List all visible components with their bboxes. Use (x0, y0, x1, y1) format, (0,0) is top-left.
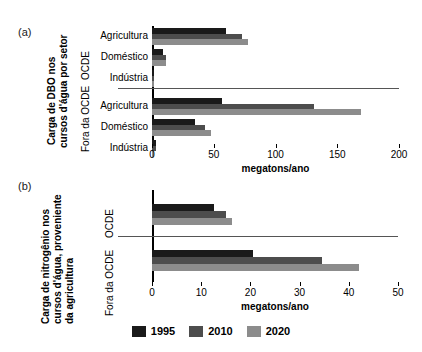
x-tick-label: 10 (181, 287, 221, 298)
legend-label: 2020 (266, 325, 290, 337)
category-label: Doméstico (74, 121, 148, 132)
x-tick-label: 50 (194, 149, 234, 160)
bar-2010 (152, 211, 226, 218)
chart-legend: 199520102020 (0, 318, 422, 344)
bar-2020 (152, 109, 361, 115)
x-axis-title: megatons/ano (186, 163, 366, 174)
x-tick-label: 0 (132, 287, 172, 298)
x-tick (300, 282, 301, 286)
panel-b-plot: 01020304050megatons/ano (0, 176, 422, 316)
x-tick-label: 40 (329, 287, 369, 298)
bar-2020 (152, 130, 211, 136)
category-label: Doméstico (74, 51, 148, 62)
bar-1995 (152, 250, 253, 257)
x-tick (349, 282, 350, 286)
x-tick (152, 282, 153, 286)
x-tick (276, 144, 277, 148)
category-label: Agricultura (74, 100, 148, 111)
x-tick-label: 150 (317, 149, 357, 160)
bar-2020 (152, 264, 359, 271)
legend-item: 1995 (132, 325, 175, 337)
category-label: Indústria (74, 72, 148, 83)
x-tick-label: 20 (230, 287, 270, 298)
legend-label: 1995 (151, 325, 175, 337)
bar-2020 (152, 39, 248, 45)
panel-a: (a) Carga de DBO nos cursos d'água por s… (0, 0, 422, 176)
legend-swatch (189, 326, 203, 337)
legend-label: 2010 (208, 325, 232, 337)
bar-1995 (152, 204, 214, 211)
legend-swatch (132, 326, 146, 337)
panel-b: (b) Carga de nitrogênio nos cursos d'águ… (0, 176, 422, 316)
group-separator (118, 236, 398, 237)
x-axis-title: megatons/ano (185, 301, 365, 312)
bar-2010 (152, 257, 322, 264)
panel-a-plot: AgriculturaDomésticoIndústriaAgricultura… (0, 0, 422, 176)
x-tick-label: 30 (280, 287, 320, 298)
x-tick-label: 0 (132, 149, 172, 160)
x-tick (399, 144, 400, 148)
x-tick-label: 200 (379, 149, 419, 160)
bar-2020 (152, 218, 232, 225)
x-tick (201, 282, 202, 286)
x-tick (337, 144, 338, 148)
legend-item: 2020 (247, 325, 290, 337)
x-tick-label: 50 (378, 287, 418, 298)
category-label: Agricultura (74, 30, 148, 41)
group-separator (118, 88, 399, 89)
bar-2020 (152, 81, 154, 87)
x-tick (152, 144, 153, 148)
bar-2020 (152, 60, 166, 66)
x-tick (398, 282, 399, 286)
x-tick (214, 144, 215, 148)
x-tick-label: 100 (256, 149, 296, 160)
legend-item: 2010 (189, 325, 232, 337)
x-tick (250, 282, 251, 286)
legend-swatch (247, 326, 261, 337)
